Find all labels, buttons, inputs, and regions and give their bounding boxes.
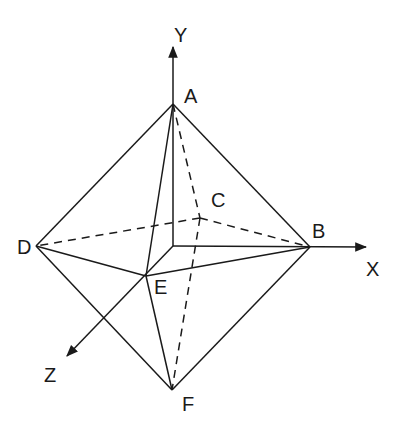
vertex-label-b: B xyxy=(312,220,325,242)
x-axis-label: X xyxy=(366,258,379,280)
z-axis xyxy=(67,246,173,356)
z-axis-label: Z xyxy=(44,364,56,386)
x-axis xyxy=(173,246,366,247)
vertex-label-a: A xyxy=(184,85,198,107)
octahedron-diagram: Y X Z A B C D E F xyxy=(0,0,400,429)
edge-c-b-hidden xyxy=(200,218,310,247)
edge-c-d-hidden xyxy=(36,218,200,246)
edge-a-c-hidden xyxy=(173,104,200,218)
vertex-label-e: E xyxy=(154,276,167,298)
vertex-label-f: F xyxy=(182,393,194,415)
y-axis-label: Y xyxy=(174,24,187,46)
vertex-label-c: C xyxy=(211,189,225,211)
edge-a-b xyxy=(173,104,310,247)
diagram-svg: Y X Z A B C D E F xyxy=(0,0,400,429)
edge-a-d xyxy=(36,104,173,246)
edge-d-e xyxy=(36,246,146,276)
edge-c-f-hidden xyxy=(172,218,200,390)
vertex-label-d: D xyxy=(17,236,31,258)
